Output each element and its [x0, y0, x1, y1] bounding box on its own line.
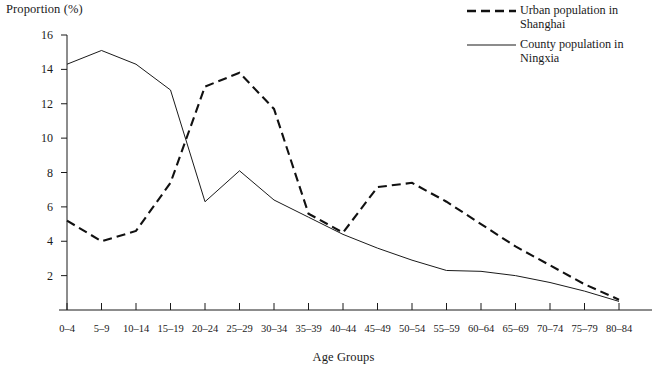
legend-label-line2: Shanghai: [520, 17, 565, 31]
series-line-county-ningxia: [67, 50, 619, 301]
chart-legend: Urban population in Shanghai County popu…: [466, 4, 656, 73]
legend-label-line1: Urban population in: [520, 3, 618, 17]
series-line-urban-shanghai: [67, 73, 619, 300]
x-axis-title: Age Groups: [0, 350, 659, 365]
legend-key-solid-icon: [466, 38, 520, 52]
y-tick-label: 6: [27, 201, 53, 213]
y-tick-label: 2: [27, 270, 53, 282]
x-tick-label: 80–84: [596, 324, 642, 335]
y-tick-label: 14: [27, 63, 53, 75]
legend-label-line2: Ningxia: [520, 51, 559, 65]
legend-label-urban-shanghai: Urban population in Shanghai: [520, 4, 618, 31]
y-tick-label: 10: [27, 132, 53, 144]
legend-label-line1: County population in: [520, 37, 624, 51]
legend-item-urban-shanghai: Urban population in Shanghai: [466, 4, 656, 31]
legend-label-county-ningxia: County population in Ningxia: [520, 38, 624, 65]
x-axis-title-text: Age Groups: [313, 350, 375, 364]
legend-key-dashed-icon: [466, 4, 520, 18]
chart-container: Proportion (%) 161412108642 0–45–910–141…: [0, 0, 659, 372]
y-tick-label: 8: [27, 167, 53, 179]
axis-group: [59, 35, 652, 310]
y-tick-label: 4: [27, 235, 53, 247]
y-tick-label: 12: [27, 98, 53, 110]
series-group: [67, 50, 619, 301]
y-tick-label: 16: [27, 29, 53, 41]
legend-item-county-ningxia: County population in Ningxia: [466, 38, 656, 65]
